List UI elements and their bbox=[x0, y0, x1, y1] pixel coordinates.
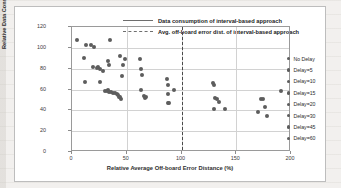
y-tick-label: 60 bbox=[16, 86, 46, 92]
scatter-point bbox=[138, 57, 142, 61]
scatter-point bbox=[167, 101, 171, 105]
x-tick-label: 200 bbox=[277, 155, 303, 161]
x-tick-label: 50 bbox=[113, 155, 139, 161]
scatter-point bbox=[144, 95, 148, 99]
legend-label-data-consumption: Data consumption of interval-based appro… bbox=[158, 18, 282, 24]
y-tick-label: 0 bbox=[16, 148, 46, 154]
series-legend-item[interactable]: Delay=10 bbox=[287, 76, 333, 87]
x-axis-title: Relative Average Off-board Error Distanc… bbox=[15, 165, 325, 171]
x-tick-mark bbox=[181, 151, 182, 154]
scatter-point bbox=[82, 56, 86, 60]
series-marker-icon bbox=[287, 80, 290, 83]
series-legend-label: No Delay bbox=[293, 56, 314, 62]
chart-figure: Data consumption of interval-based appro… bbox=[14, 6, 326, 182]
scatter-point bbox=[101, 69, 105, 73]
solid-line-key-icon bbox=[123, 20, 153, 21]
series-legend-item[interactable]: No Delay bbox=[287, 53, 333, 64]
scatter-point bbox=[217, 100, 221, 104]
reference-line-x100 bbox=[182, 27, 183, 150]
y-axis-title: Relative Data Consumption (%) bbox=[1, 0, 7, 49]
series-legend-label: Delay=5 bbox=[293, 67, 312, 73]
series-legend: No DelayDelay=5Delay=10Delay=15Delay=20D… bbox=[287, 53, 333, 144]
legend-row-data-consumption: Data consumption of interval-based appro… bbox=[123, 15, 303, 26]
series-legend-label: Delay=15 bbox=[293, 90, 315, 96]
scatter-point bbox=[83, 80, 87, 84]
y-tick-label: 40 bbox=[16, 106, 46, 112]
gridline-horizontal bbox=[72, 48, 289, 49]
scatter-point bbox=[139, 67, 143, 71]
scatter-point bbox=[98, 80, 102, 84]
y-tick-label: 100 bbox=[16, 44, 46, 50]
scatter-point bbox=[166, 92, 170, 96]
series-marker-icon bbox=[287, 103, 290, 106]
scatter-point bbox=[263, 105, 267, 109]
screenshot-page: Data consumption of interval-based appro… bbox=[0, 0, 341, 188]
series-legend-item[interactable]: Delay=15 bbox=[287, 87, 333, 98]
series-legend-label: Delay=30 bbox=[293, 113, 315, 119]
scatter-point bbox=[120, 74, 124, 78]
series-marker-icon bbox=[287, 57, 290, 60]
x-tick-label: 100 bbox=[168, 155, 194, 161]
series-legend-item[interactable]: Delay=30 bbox=[287, 110, 333, 121]
series-marker-icon bbox=[287, 68, 290, 71]
scatter-point bbox=[123, 57, 127, 61]
series-marker-icon bbox=[287, 137, 290, 140]
scatter-point bbox=[92, 45, 96, 49]
gridline-vertical bbox=[127, 27, 128, 150]
x-tick-label: 150 bbox=[222, 155, 248, 161]
x-tick-mark bbox=[235, 151, 236, 154]
series-marker-icon bbox=[287, 114, 290, 117]
scatter-point bbox=[256, 110, 260, 114]
gridline-vertical bbox=[236, 27, 237, 150]
scatter-point bbox=[166, 83, 170, 87]
y-tick-label: 120 bbox=[16, 23, 46, 29]
y-tick-label: 80 bbox=[16, 65, 46, 71]
series-legend-item[interactable]: Delay=20 bbox=[287, 99, 333, 110]
scatter-point bbox=[279, 89, 283, 93]
series-marker-icon bbox=[287, 125, 290, 128]
scatter-point bbox=[223, 107, 227, 111]
series-legend-label: Delay=20 bbox=[293, 101, 315, 107]
scatter-point bbox=[118, 54, 122, 58]
scatter-point bbox=[107, 63, 111, 67]
scatter-point bbox=[212, 107, 216, 111]
scatter-point bbox=[172, 88, 176, 92]
x-tick-mark bbox=[71, 151, 72, 154]
scatter-point bbox=[139, 88, 143, 92]
scatter-point bbox=[75, 38, 79, 42]
series-legend-label: Delay=60 bbox=[293, 135, 315, 141]
x-tick-label: 0 bbox=[58, 155, 84, 161]
scatter-point bbox=[140, 73, 144, 77]
scatter-point bbox=[119, 97, 123, 101]
x-tick-mark bbox=[290, 151, 291, 154]
scatter-point bbox=[108, 38, 112, 42]
scatter-point bbox=[121, 63, 125, 67]
y-tick-label: 20 bbox=[16, 127, 46, 133]
series-marker-icon bbox=[287, 91, 290, 94]
scatter-point bbox=[265, 114, 269, 118]
series-legend-item[interactable]: Delay=45 bbox=[287, 121, 333, 132]
series-legend-item[interactable]: Delay=5 bbox=[287, 64, 333, 75]
series-legend-label: Delay=10 bbox=[293, 78, 315, 84]
scatter-point bbox=[261, 97, 265, 101]
series-legend-label: Delay=45 bbox=[293, 124, 315, 130]
scatter-point bbox=[165, 77, 169, 81]
gridline-horizontal bbox=[72, 131, 289, 132]
plot-area bbox=[71, 26, 290, 151]
series-legend-item[interactable]: Delay=60 bbox=[287, 133, 333, 144]
scatter-point bbox=[212, 83, 216, 87]
x-tick-mark bbox=[126, 151, 127, 154]
